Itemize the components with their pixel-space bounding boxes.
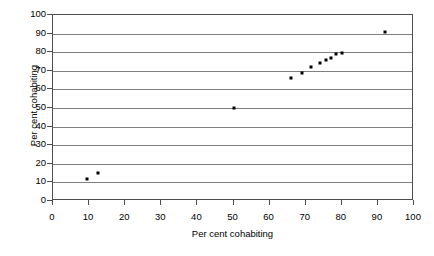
x-axis-tick-label: 70 xyxy=(299,211,310,222)
y-axis-tick-label: 90 xyxy=(20,28,46,38)
gridline-horizontal xyxy=(53,34,412,35)
x-axis-tick xyxy=(124,200,125,205)
y-axis-tick-label: 20 xyxy=(20,158,46,168)
data-point xyxy=(290,77,293,80)
data-point xyxy=(324,58,327,61)
y-axis-tick xyxy=(47,51,52,52)
y-axis-tick-label: 50 xyxy=(20,102,46,112)
y-axis-tick xyxy=(47,144,52,145)
x-axis-tick xyxy=(269,200,270,205)
x-axis-tick-label: 40 xyxy=(191,211,202,222)
y-axis-tick xyxy=(47,107,52,108)
data-point xyxy=(232,107,235,110)
y-axis-tick-label: 0 xyxy=(20,195,46,205)
y-axis-tick-label: 40 xyxy=(20,121,46,131)
scatter-chart: Per cent cohabiting Per cent cohabiting … xyxy=(0,0,434,256)
y-axis-tick-label: 80 xyxy=(20,46,46,56)
plot-area xyxy=(52,14,413,200)
x-axis-tick xyxy=(413,200,414,205)
x-axis-tick-label: 10 xyxy=(83,211,94,222)
gridline-horizontal xyxy=(53,71,412,72)
data-point xyxy=(97,172,100,175)
data-point xyxy=(319,62,322,65)
data-point xyxy=(340,52,343,55)
y-axis-tick-label: 70 xyxy=(20,65,46,75)
x-axis-tick xyxy=(233,200,234,205)
y-axis-tick xyxy=(47,33,52,34)
x-axis-tick-label: 100 xyxy=(405,211,421,222)
y-axis-tick-label: 60 xyxy=(20,83,46,93)
x-axis-title: Per cent cohabiting xyxy=(52,228,413,239)
x-axis-tick xyxy=(341,200,342,205)
y-axis-tick-label: 30 xyxy=(20,139,46,149)
data-point xyxy=(310,66,313,69)
gridline-horizontal xyxy=(53,89,412,90)
x-axis-tick xyxy=(196,200,197,205)
x-axis-tick-label: 20 xyxy=(119,211,130,222)
gridline-horizontal xyxy=(53,127,412,128)
y-axis-tick xyxy=(47,14,52,15)
y-axis-tick xyxy=(47,126,52,127)
x-axis-tick xyxy=(305,200,306,205)
x-axis-tick-label: 30 xyxy=(155,211,166,222)
x-axis-tick-label: 50 xyxy=(227,211,238,222)
x-axis-tick xyxy=(377,200,378,205)
gridline-horizontal xyxy=(53,164,412,165)
x-axis-tick xyxy=(160,200,161,205)
data-point xyxy=(335,53,338,56)
x-axis-tick xyxy=(52,200,53,205)
x-axis-tick-label: 80 xyxy=(336,211,347,222)
gridline-horizontal xyxy=(53,52,412,53)
x-axis-tick xyxy=(88,200,89,205)
y-axis-tick xyxy=(47,70,52,71)
y-axis-tick xyxy=(47,163,52,164)
x-axis-tick-label: 60 xyxy=(263,211,274,222)
y-axis-tick xyxy=(47,88,52,89)
gridline-horizontal xyxy=(53,182,412,183)
y-axis-tick xyxy=(47,181,52,182)
x-axis-tick-label: 90 xyxy=(372,211,383,222)
y-axis-tick-label: 10 xyxy=(20,176,46,186)
x-axis-tick-label: 0 xyxy=(49,211,54,222)
data-point xyxy=(86,177,89,180)
gridline-horizontal xyxy=(53,145,412,146)
data-point xyxy=(384,30,387,33)
data-point xyxy=(329,56,332,59)
data-point xyxy=(301,71,304,74)
y-axis-tick-label: 100 xyxy=(20,9,46,19)
